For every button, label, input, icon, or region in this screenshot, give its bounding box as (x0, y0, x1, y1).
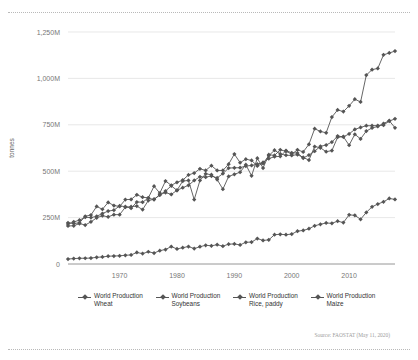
data-point-marker (387, 196, 391, 200)
legend-item-rice[interactable]: World Production Rice, paddy (233, 292, 301, 307)
data-point-marker (376, 202, 380, 206)
data-point-marker (307, 158, 311, 162)
data-point-marker (238, 166, 242, 170)
y-axis-title: tonnes (8, 137, 15, 157)
data-point-marker (175, 180, 179, 184)
data-point-marker (238, 243, 242, 247)
legend-marker-icon (233, 293, 246, 302)
data-point-marker (135, 204, 139, 208)
data-point-marker (387, 51, 391, 55)
y-axis-tick-label: 0 (56, 261, 60, 268)
legend-label: World Production Rice, paddy (249, 292, 301, 307)
legend-item-soybeans[interactable]: World Production Soybeans (156, 292, 224, 307)
data-point-marker (358, 125, 362, 129)
data-point-marker (255, 156, 259, 160)
data-point-marker (89, 215, 93, 219)
data-point-marker (324, 221, 328, 225)
chart-page: 0250M500M750M1,000M1,250Mtonnes197019801… (0, 0, 418, 360)
data-point-marker (232, 166, 236, 170)
data-point-marker (324, 143, 328, 147)
data-point-marker (135, 250, 139, 254)
data-point-marker (106, 209, 110, 213)
data-point-marker (244, 157, 248, 161)
data-point-marker (215, 243, 219, 247)
data-point-marker (192, 246, 196, 250)
data-point-marker (140, 251, 144, 255)
source-note: Source: FAOSTAT (May 11, 2020) (315, 332, 390, 338)
series-line-3 (68, 51, 395, 226)
data-point-marker (209, 244, 213, 248)
data-point-marker (301, 228, 305, 232)
data-point-marker (140, 207, 144, 211)
data-point-marker (244, 240, 248, 244)
data-point-marker (152, 251, 156, 255)
data-point-marker (77, 256, 81, 260)
legend-marker-icon (311, 293, 324, 302)
data-point-marker (140, 195, 144, 199)
data-point-marker (72, 224, 76, 228)
data-point-marker (186, 178, 190, 182)
data-point-marker (186, 244, 190, 248)
data-point-marker (313, 144, 317, 148)
data-point-marker (123, 253, 127, 257)
data-point-marker (181, 246, 185, 250)
data-point-marker (100, 255, 104, 259)
data-point-marker (393, 117, 397, 121)
data-point-marker (313, 127, 317, 131)
data-point-marker (284, 233, 288, 237)
data-point-marker (330, 221, 334, 225)
data-point-marker (118, 254, 122, 258)
data-point-marker (261, 166, 265, 170)
x-axis-tick-label: 2010 (341, 272, 357, 279)
data-point-marker (295, 229, 299, 233)
data-point-marker (284, 153, 288, 157)
data-point-marker (106, 215, 110, 219)
y-axis-tick-label: 250M (42, 214, 60, 221)
data-point-marker (204, 243, 208, 247)
data-point-marker (146, 250, 150, 254)
data-point-marker (89, 256, 93, 260)
data-point-marker (307, 227, 311, 231)
y-axis-tick-label: 1,250M (37, 29, 61, 36)
data-point-marker (324, 131, 328, 135)
data-point-marker (318, 222, 322, 226)
legend-item-wheat[interactable]: World Production Wheat (78, 292, 146, 307)
line-chart: 0250M500M750M1,000M1,250Mtonnes197019801… (0, 18, 418, 308)
data-point-marker (393, 197, 397, 201)
data-point-marker (106, 254, 110, 258)
data-point-marker (227, 242, 231, 246)
data-point-marker (129, 253, 133, 257)
data-point-marker (198, 245, 202, 249)
data-point-marker (169, 244, 173, 248)
data-point-marker (290, 232, 294, 236)
data-point-marker (181, 186, 185, 190)
legend-label: World Production Soybeans (172, 292, 224, 307)
data-point-marker (83, 256, 87, 260)
data-point-marker (284, 149, 288, 153)
data-point-marker (381, 53, 385, 57)
legend-marker-icon (78, 293, 91, 302)
x-axis-tick-label: 2000 (284, 272, 300, 279)
data-point-marker (66, 257, 70, 261)
legend-label: World Production Maize (327, 292, 379, 307)
data-point-marker (364, 124, 368, 128)
data-point-marker (232, 242, 236, 246)
data-point-marker (255, 236, 259, 240)
chart-legend: World Production Wheat World Production … (78, 292, 378, 307)
legend-label: World Production Wheat (94, 292, 146, 307)
data-point-marker (83, 223, 87, 227)
data-point-marker (227, 174, 231, 178)
data-point-marker (278, 232, 282, 236)
data-point-marker (192, 197, 196, 201)
y-axis-tick-label: 1,000M (37, 75, 61, 82)
data-point-marker (112, 213, 116, 217)
data-point-marker (313, 224, 317, 228)
data-point-marker (221, 244, 225, 248)
legend-marker-icon (156, 293, 169, 302)
y-axis-tick-label: 500M (42, 168, 60, 175)
legend-item-maize[interactable]: World Production Maize (311, 292, 379, 307)
data-point-marker (232, 172, 236, 176)
data-point-marker (175, 247, 179, 251)
data-point-marker (163, 247, 167, 251)
x-axis-tick-label: 1990 (227, 272, 243, 279)
